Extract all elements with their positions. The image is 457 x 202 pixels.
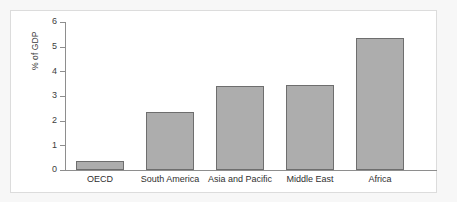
y-tick-label-5: 5	[38, 42, 57, 51]
x-label-oecd: OECD	[60, 174, 140, 185]
bar-south-america	[146, 112, 194, 170]
y-tick-label-3: 3	[38, 91, 57, 100]
y-axis-title: % of GDP	[30, 0, 40, 70]
y-tick-label-6: 6	[38, 17, 57, 26]
x-label-south-america: South America	[130, 174, 210, 185]
y-axis-line	[65, 22, 66, 171]
y-tick-6: 6	[38, 17, 57, 26]
chart-screenshot: % of GDP 6 5 4 3 2 1 0 OECD South Americ…	[0, 0, 457, 202]
y-tick-0: 0	[38, 165, 57, 174]
y-tick-5: 5	[38, 42, 57, 51]
x-label-middle-east: Middle East	[270, 174, 350, 185]
y-tick-label-0: 0	[38, 165, 57, 174]
x-label-asia-and-pacific: Asia and Pacific	[200, 174, 280, 185]
x-label-africa: Africa	[340, 174, 420, 185]
bar-middle-east	[286, 85, 334, 170]
y-tick-4: 4	[38, 67, 57, 76]
y-tick-1: 1	[38, 141, 57, 150]
bar-oecd	[76, 161, 124, 170]
y-tick-2: 2	[38, 116, 57, 125]
bar-asia-and-pacific	[216, 86, 264, 170]
bar-africa	[356, 38, 404, 170]
x-axis-line	[60, 170, 437, 171]
y-tick-label-4: 4	[38, 67, 57, 76]
y-tick-label-1: 1	[38, 141, 57, 150]
y-tick-label-2: 2	[38, 116, 57, 125]
y-tick-3: 3	[38, 91, 57, 100]
